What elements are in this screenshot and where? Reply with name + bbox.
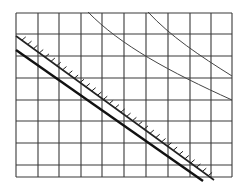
hatch-tick	[132, 117, 136, 120]
hatch-tick	[28, 41, 32, 44]
hatch-tick	[103, 96, 107, 99]
hatch-tick	[179, 151, 183, 154]
hatch-tick	[39, 50, 43, 53]
hatch-tick	[185, 155, 189, 158]
hatch-tick	[86, 83, 90, 86]
diagram-canvas	[0, 0, 251, 196]
hatch-tick	[98, 92, 102, 95]
hatch-tick	[68, 71, 72, 74]
hatch-tick	[63, 67, 67, 70]
hatch-tick	[191, 160, 195, 163]
hatch-tick	[22, 37, 26, 40]
hatch-tick	[33, 45, 37, 48]
hatch-tick	[92, 88, 96, 91]
thick-line	[16, 50, 203, 181]
hatch-tick	[51, 58, 55, 61]
hatch-tick	[138, 122, 142, 125]
thick-line-stroke	[16, 50, 203, 181]
hatched-boundary-line	[16, 36, 214, 180]
hatch-tick	[127, 113, 131, 116]
hatch-tick	[115, 105, 119, 108]
diagram-svg	[0, 0, 251, 196]
hatch-tick	[202, 168, 206, 171]
hatch-tick	[109, 100, 113, 103]
hatch-tick	[173, 147, 177, 150]
hatch-tick	[162, 139, 166, 142]
hatch-tick	[156, 134, 160, 137]
hatch-tick	[150, 130, 154, 133]
grid	[16, 13, 232, 177]
